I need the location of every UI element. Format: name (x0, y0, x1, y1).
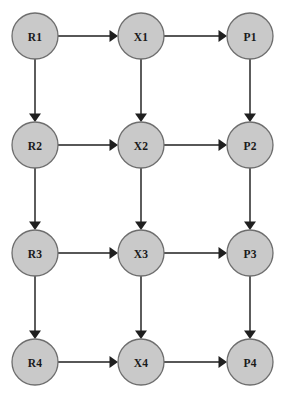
edge-x1-to-x2 (135, 59, 147, 122)
edge-r3-to-x3 (58, 247, 118, 259)
edge-p2-to-p3 (244, 168, 256, 230)
arrowhead-icon (135, 222, 147, 231)
node-label: R3 (28, 248, 43, 260)
arrowhead-icon (244, 222, 256, 231)
edge-x2-to-p2 (164, 139, 227, 151)
graph-node-x3[interactable]: X3 (118, 230, 164, 276)
graph-node-r2[interactable]: R2 (12, 122, 58, 168)
node-label: P4 (243, 357, 256, 369)
edge-r1-to-x1 (58, 30, 118, 42)
arrowhead-icon (219, 139, 228, 151)
node-label: R4 (28, 357, 43, 369)
graph-node-r4[interactable]: R4 (12, 339, 58, 385)
graph-node-r1[interactable]: R1 (12, 13, 58, 59)
arrowhead-icon (244, 331, 256, 340)
edge-p1-to-p2 (244, 59, 256, 122)
edge-r1-to-r2 (29, 59, 41, 122)
edge-r2-to-r3 (29, 168, 41, 230)
node-label: R1 (28, 31, 43, 43)
nodes-layer: R1X1P1R2X2P2R3X3P3R4X4P4 (12, 13, 273, 385)
edge-x4-to-p4 (164, 356, 227, 368)
arrowhead-icon (110, 139, 119, 151)
edge-x3-to-x4 (135, 276, 147, 339)
node-label: X3 (134, 248, 149, 260)
edge-x2-to-x3 (135, 168, 147, 230)
arrowhead-icon (219, 30, 228, 42)
arrowhead-icon (110, 247, 119, 259)
arrowhead-icon (244, 114, 256, 123)
graph-node-r3[interactable]: R3 (12, 230, 58, 276)
diagram-canvas: R1X1P1R2X2P2R3X3P3R4X4P4 (0, 0, 285, 395)
graph-node-x2[interactable]: X2 (118, 122, 164, 168)
edge-x3-to-p3 (164, 247, 227, 259)
node-label: X1 (134, 31, 149, 43)
edge-r2-to-x2 (58, 139, 118, 151)
node-label: R2 (28, 140, 43, 152)
node-label: X4 (134, 357, 149, 369)
arrowhead-icon (29, 114, 41, 123)
edges-layer (29, 30, 256, 368)
edge-r4-to-x4 (58, 356, 118, 368)
arrowhead-icon (135, 114, 147, 123)
graph-node-x1[interactable]: X1 (118, 13, 164, 59)
directed-graph-svg: R1X1P1R2X2P2R3X3P3R4X4P4 (0, 0, 285, 395)
edge-r3-to-r4 (29, 276, 41, 339)
node-label: X2 (134, 140, 149, 152)
graph-node-x4[interactable]: X4 (118, 339, 164, 385)
arrowhead-icon (29, 222, 41, 231)
graph-node-p1[interactable]: P1 (227, 13, 273, 59)
node-label: P1 (243, 31, 256, 43)
graph-node-p4[interactable]: P4 (227, 339, 273, 385)
arrowhead-icon (29, 331, 41, 340)
arrowhead-icon (135, 331, 147, 340)
graph-node-p3[interactable]: P3 (227, 230, 273, 276)
node-label: P3 (243, 248, 256, 260)
arrowhead-icon (219, 247, 228, 259)
node-label: P2 (243, 140, 256, 152)
arrowhead-icon (110, 356, 119, 368)
graph-node-p2[interactable]: P2 (227, 122, 273, 168)
arrowhead-icon (219, 356, 228, 368)
edge-p3-to-p4 (244, 276, 256, 339)
edge-x1-to-p1 (164, 30, 227, 42)
arrowhead-icon (110, 30, 119, 42)
